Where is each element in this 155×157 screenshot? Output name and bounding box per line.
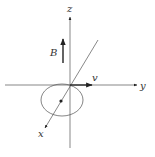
velocity-label: v [92, 72, 98, 83]
diagram-figure: z y x B v [0, 0, 155, 157]
diagram-canvas: z y x B v [0, 0, 155, 157]
z-axis-label: z [66, 3, 73, 14]
charge-dot [59, 99, 62, 102]
y-axis-label: y [139, 80, 146, 91]
field-label: B [49, 47, 57, 58]
x-axis-label: x [38, 128, 44, 139]
